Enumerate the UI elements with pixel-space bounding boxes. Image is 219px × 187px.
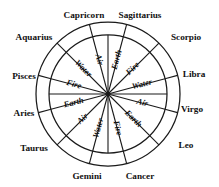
sign-label-libra: Libra [183,69,206,79]
sign-label-cancer: Cancer [126,171,155,181]
sign-label-aquarius: Aquarius [16,32,53,42]
sign-label-taurus: Taurus [20,143,48,153]
sign-label-aries: Aries [14,108,35,118]
sign-label-gemini: Gemini [72,171,102,181]
zodiac-wheel-diagram: EarthFireWaterAirEarthFireWaterAirEarthF… [0,0,219,187]
sign-label-capricorn: Capricorn [64,10,105,20]
sign-label-scorpio: Scorpio [171,32,202,42]
sign-label-sagittarius: Sagittarius [119,10,162,20]
sign-label-pisces: Pisces [12,71,36,81]
sign-label-leo: Leo [179,140,194,150]
sign-label-virgo: Virgo [181,104,204,114]
zodiac-wheel-svg: EarthFireWaterAirEarthFireWaterAirEarthF… [0,0,219,187]
